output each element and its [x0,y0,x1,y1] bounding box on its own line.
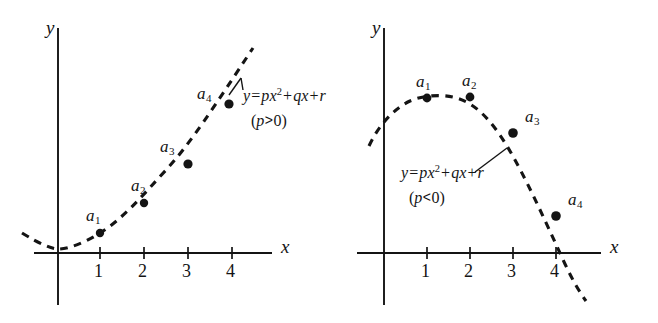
x-tick-label-1: 1 [94,262,103,280]
point-label-a3: a3 [525,108,539,125]
point-label-a2: a2 [462,72,476,89]
data-point-a2 [466,93,475,102]
quadratic-sequence-figure: y x 1 2 3 4 a1 a2 a3 a4 y=px2+qx+r (p>0) [0,0,658,323]
point-label-a4: a4 [568,191,582,208]
right-panel-plot [329,0,658,323]
data-point-a1 [423,94,432,103]
x-tick-label-3: 3 [182,262,191,280]
data-point-a4 [224,99,233,108]
left-panel-plot [0,0,329,323]
x-tick-label-3: 3 [507,262,516,280]
x-tick-label-2: 2 [464,262,473,280]
x-tick-label-2: 2 [138,262,147,280]
x-axis-label: x [610,237,618,256]
parabola-curve-up [22,48,253,249]
data-point-a1 [96,229,104,237]
right-panel: y x 1 2 3 4 a1 a2 a3 a4 y=px2+qx+r (p<0) [329,0,658,323]
data-point-a2 [140,199,148,207]
data-point-a3 [183,159,192,168]
curve-equation: y=px2+qx+r [401,165,484,181]
left-panel: y x 1 2 3 4 a1 a2 a3 a4 y=px2+qx+r (p>0) [0,0,329,323]
y-axis-label: y [372,18,380,37]
x-tick-label-1: 1 [421,262,430,280]
curve-condition: (p<0) [409,190,445,206]
x-tick-label-4: 4 [550,262,559,280]
x-axis-label: x [281,237,289,256]
curve-equation: y=px2+qx+r [243,88,326,104]
point-label-a3: a3 [160,138,174,155]
curve-condition: (p>0) [251,113,287,129]
point-label-a1: a1 [416,73,430,90]
point-label-a2: a2 [131,177,145,194]
y-axis-label: y [46,18,54,37]
x-tick-label-4: 4 [226,262,235,280]
data-point-a4 [551,211,561,221]
point-label-a1: a1 [86,207,100,224]
point-label-a4: a4 [197,85,211,102]
data-point-a3 [508,128,518,138]
